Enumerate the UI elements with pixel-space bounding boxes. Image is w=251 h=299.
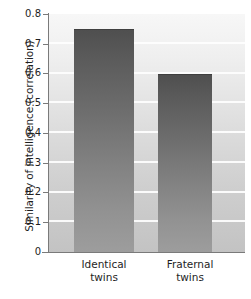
y-tick-label: 0.7 [1,39,41,49]
y-tick-label: 0.2 [1,187,41,197]
y-tick-label: 0.8 [1,9,41,19]
bar-chart: Similarity of intelligence (correlation)… [0,0,251,299]
x-category-label-line1: Fraternal [140,258,240,271]
y-tick-label: 0.5 [1,98,41,108]
bar-fraternal-twins[interactable] [158,74,212,253]
plot-area [49,14,245,252]
x-category-label-line1: Identical [54,258,154,271]
x-category-label-identical-twins: Identical twins [54,258,154,284]
y-tick-label: 0 [1,247,41,257]
bar-identical-twins[interactable] [74,29,134,252]
y-axis-line [48,13,49,253]
y-tick-label: 0.4 [1,128,41,138]
x-axis-line [42,252,245,253]
x-category-label-line2: twins [54,271,154,284]
y-tick-label: 0.1 [1,217,41,227]
y-tick-label: 0.3 [1,158,41,168]
y-axis-tick-labels: 0.8 0.7 0.6 0.5 0.4 0.3 0.2 0.1 0 [0,0,41,299]
x-category-label-fraternal-twins: Fraternal twins [140,258,240,284]
x-category-label-line2: twins [140,271,240,284]
y-tick-label: 0.6 [1,68,41,78]
